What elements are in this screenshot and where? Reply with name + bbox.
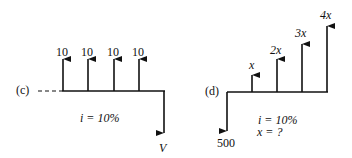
inflow-label-2x: 2x — [270, 44, 281, 56]
inflow-label-4x: 4x — [320, 9, 331, 21]
outflow-label-v: V — [159, 142, 166, 154]
interest-rate-label: i = 10% — [80, 112, 119, 124]
inflow-label-x: x — [249, 59, 254, 71]
inflow-label-4: 10 — [132, 46, 144, 58]
cash-flow-diagrams — [0, 0, 352, 158]
inflow-label-3: 10 — [107, 46, 119, 58]
inflow-label-1: 10 — [56, 46, 68, 58]
inflow-label-2: 10 — [81, 46, 93, 58]
inflow-label-3x: 3x — [295, 27, 306, 39]
diagram-d-label: (d) — [205, 85, 219, 97]
outflow-label-500: 500 — [217, 137, 235, 149]
unknown-label: x = ? — [257, 126, 282, 138]
diagram-c-label: (c) — [16, 84, 29, 96]
